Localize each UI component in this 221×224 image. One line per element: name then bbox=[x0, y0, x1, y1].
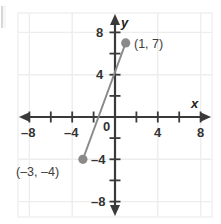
x-tick-label-4: 4 bbox=[154, 126, 161, 139]
y-axis-top-arrow bbox=[110, 14, 120, 25]
y-axis-name: y bbox=[121, 16, 128, 29]
graph-figure: y x 0 –8 –4 4 8 8 4 –4 –8 (1, 7) (–3, –4… bbox=[0, 0, 221, 224]
origin-label: 0 bbox=[103, 120, 110, 133]
x-axis-left-arrow bbox=[19, 112, 30, 122]
point-label-upper: (1, 7) bbox=[134, 38, 163, 51]
y-tick-label-minus8: –8 bbox=[91, 195, 105, 208]
x-tick-label-minus8: –8 bbox=[21, 126, 35, 139]
y-tick-label-8: 8 bbox=[96, 26, 103, 39]
y-axis-bottom-arrow bbox=[110, 205, 120, 216]
y-tick-label-minus4: –4 bbox=[91, 153, 105, 166]
x-tick-label-minus4: –4 bbox=[64, 126, 78, 139]
x-axis-right-arrow bbox=[200, 112, 211, 122]
point-label-lower: (–3, –4) bbox=[16, 166, 59, 179]
x-axis-name: x bbox=[191, 97, 198, 110]
data-point-lower bbox=[78, 155, 87, 164]
data-point-upper bbox=[121, 38, 130, 47]
y-tick-label-4: 4 bbox=[96, 68, 103, 81]
coordinate-plane-svg bbox=[0, 0, 221, 224]
plotted-segment bbox=[83, 43, 126, 159]
x-tick-label-8: 8 bbox=[197, 126, 204, 139]
